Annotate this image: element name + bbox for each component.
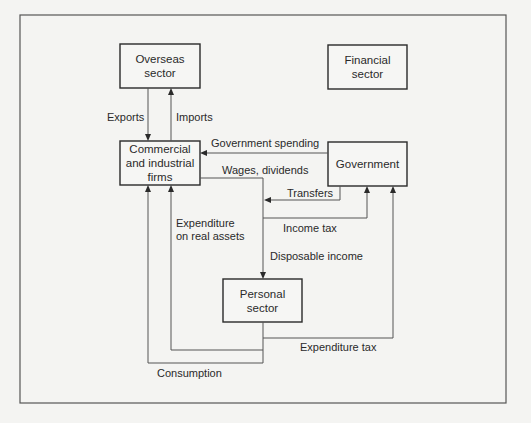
arrow-down-icon [145, 134, 151, 141]
income-tax-label: Income tax [283, 222, 337, 235]
wages-dividends-label: Wages, dividends [222, 164, 308, 177]
disposable-income-label: Disposable income [270, 250, 363, 263]
arrow-up-icon [364, 186, 370, 193]
circular-flow-diagram [0, 0, 531, 423]
consumption-label: Consumption [157, 367, 222, 380]
government-label: Government [328, 142, 407, 186]
imports-label: Imports [176, 111, 213, 124]
government-spending-label: Government spending [211, 137, 319, 150]
overseas-sector-label: Overseas sector [120, 44, 200, 88]
exports-flow [145, 88, 151, 141]
exports-label: Exports [107, 111, 144, 124]
consumption-flow [145, 185, 263, 363]
imports-flow [168, 88, 174, 141]
expenditure-real-assets-label: Expenditure on real assets [176, 217, 244, 243]
personal-sector-label: Personal sector [223, 279, 302, 322]
transfers-label: Transfers [287, 187, 333, 200]
arrow-down-icon [260, 272, 266, 279]
commercial-firms-label: Commercial and industrial firms [120, 141, 200, 185]
arrow-up-icon [145, 185, 151, 192]
arrow-up-icon [168, 88, 174, 95]
financial-sector-label: Financial sector [328, 45, 407, 89]
arrow-up-icon [168, 185, 174, 192]
arrow-left-icon [200, 150, 207, 156]
expenditure-tax-label: Expenditure tax [300, 341, 376, 354]
arrow-left-icon [264, 197, 271, 203]
expenditure-real-assets-flow [168, 185, 263, 350]
government-spending-flow [200, 150, 328, 156]
arrow-up-icon [390, 186, 396, 193]
